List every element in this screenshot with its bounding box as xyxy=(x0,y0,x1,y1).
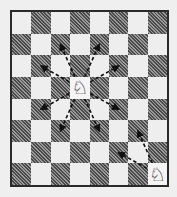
light-square xyxy=(70,120,89,142)
dark-square xyxy=(109,142,128,164)
light-square xyxy=(148,120,167,142)
light-square xyxy=(148,34,167,56)
light-square xyxy=(12,12,31,34)
light-square xyxy=(128,12,147,34)
dark-square xyxy=(148,55,167,77)
light-square xyxy=(128,99,147,121)
dark-square xyxy=(51,120,70,142)
light-square xyxy=(109,34,128,56)
dark-square xyxy=(90,163,109,185)
dark-square xyxy=(148,99,167,121)
dark-square xyxy=(128,34,147,56)
dark-square xyxy=(51,34,70,56)
light-square xyxy=(12,55,31,77)
light-square xyxy=(90,12,109,34)
chessboard: ♘♘ xyxy=(10,10,169,187)
light-square xyxy=(148,77,167,99)
dark-square xyxy=(31,142,50,164)
light-square xyxy=(12,99,31,121)
dark-square xyxy=(31,12,50,34)
white-knight-icon: ♘ xyxy=(148,163,167,185)
light-square xyxy=(31,120,50,142)
dark-square xyxy=(109,99,128,121)
light-square xyxy=(12,142,31,164)
light-square xyxy=(51,99,70,121)
dark-square xyxy=(148,12,167,34)
light-square xyxy=(109,77,128,99)
light-square xyxy=(31,163,50,185)
light-square xyxy=(70,163,89,185)
light-square xyxy=(90,142,109,164)
dark-square xyxy=(51,77,70,99)
dark-square xyxy=(90,77,109,99)
light-square xyxy=(70,34,89,56)
white-knight-icon: ♘ xyxy=(70,77,89,99)
dark-square xyxy=(70,55,89,77)
dark-square xyxy=(31,99,50,121)
light-square xyxy=(31,77,50,99)
dark-square xyxy=(109,12,128,34)
light-square xyxy=(109,120,128,142)
light-square xyxy=(128,142,147,164)
dark-square xyxy=(12,120,31,142)
light-square xyxy=(51,55,70,77)
dark-square xyxy=(51,163,70,185)
dark-square xyxy=(12,163,31,185)
dark-square xyxy=(148,142,167,164)
dark-square xyxy=(12,77,31,99)
dark-square xyxy=(70,12,89,34)
dark-square xyxy=(31,55,50,77)
light-square xyxy=(90,99,109,121)
dark-square xyxy=(128,120,147,142)
light-square xyxy=(128,55,147,77)
dark-square xyxy=(128,77,147,99)
dark-square xyxy=(70,142,89,164)
light-square xyxy=(31,34,50,56)
dark-square xyxy=(90,120,109,142)
light-square xyxy=(51,142,70,164)
dark-square xyxy=(70,99,89,121)
dark-square xyxy=(90,34,109,56)
light-square xyxy=(51,12,70,34)
dark-square xyxy=(128,163,147,185)
light-square xyxy=(109,163,128,185)
light-square xyxy=(90,55,109,77)
dark-square xyxy=(109,55,128,77)
dark-square xyxy=(12,34,31,56)
